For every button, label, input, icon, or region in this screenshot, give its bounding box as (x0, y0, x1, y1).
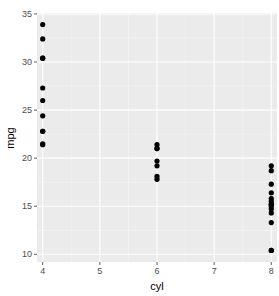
x-tick-label: 4 (40, 266, 45, 276)
x-tick-label: 7 (212, 266, 217, 276)
y-tick-label: 25 (22, 105, 32, 115)
data-point (40, 129, 45, 134)
data-point (40, 22, 45, 27)
data-point (40, 85, 45, 90)
data-point (269, 182, 274, 187)
x-axis-title: cyl (150, 280, 163, 292)
data-point (269, 220, 274, 225)
data-point (154, 158, 159, 163)
data-point (40, 36, 45, 41)
y-tick-label: 20 (22, 153, 32, 163)
y-tick-label: 15 (22, 201, 32, 211)
data-point (269, 204, 274, 209)
data-point (269, 168, 274, 173)
x-axis-ticks: 45678 (40, 262, 274, 276)
x-tick-label: 5 (97, 266, 102, 276)
data-point (40, 98, 45, 103)
x-tick-label: 8 (269, 266, 274, 276)
data-point (154, 177, 159, 182)
y-tick-label: 10 (22, 249, 32, 259)
scatter-plot: 101520253035 45678 cyl mpg (0, 0, 279, 296)
data-point (40, 56, 45, 61)
data-point (269, 190, 274, 195)
data-point (40, 142, 45, 147)
data-point (154, 142, 159, 147)
data-point (154, 163, 159, 168)
x-tick-label: 6 (154, 266, 159, 276)
data-point (269, 163, 274, 168)
data-point (269, 248, 274, 253)
y-tick-label: 30 (22, 57, 32, 67)
y-tick-label: 35 (22, 9, 32, 19)
data-point (269, 196, 274, 201)
data-point (40, 113, 45, 118)
y-axis-ticks: 101520253035 (22, 9, 37, 259)
y-axis-title: mpg (4, 127, 16, 148)
